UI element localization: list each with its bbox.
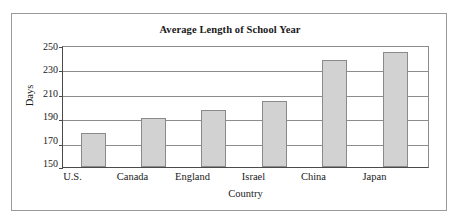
chart-page: Average Length of School Year Days 250 2… — [0, 0, 458, 224]
chart-title: Average Length of School Year — [12, 24, 448, 35]
bar-us[interactable] — [81, 133, 106, 167]
gridline-190 — [63, 120, 428, 121]
y-tick-label-250: 250 — [43, 42, 58, 52]
x-tick-label-japan: Japan — [335, 171, 415, 182]
y-tick-mark-190 — [59, 120, 63, 121]
y-tick-label-210: 210 — [43, 89, 58, 99]
y-tick-label-230: 230 — [43, 65, 58, 75]
figure-frame: Average Length of School Year Days 250 2… — [11, 13, 447, 211]
y-tick-label-170: 170 — [43, 136, 58, 146]
y-tick-label-150: 150 — [43, 159, 58, 169]
bar-canada[interactable] — [141, 118, 166, 167]
bar-china[interactable] — [322, 60, 347, 167]
y-tick-label-190: 190 — [43, 112, 58, 122]
y-tick-mark-150 — [59, 168, 63, 169]
bar-japan[interactable] — [383, 52, 408, 167]
y-tick-mark-250 — [59, 47, 63, 48]
x-axis-title: Country — [62, 188, 429, 199]
bar-israel[interactable] — [262, 101, 287, 167]
plot-area — [62, 46, 429, 168]
gridline-230 — [63, 71, 428, 72]
y-tick-mark-210 — [59, 96, 63, 97]
bar-england[interactable] — [201, 110, 226, 167]
y-tick-mark-170 — [59, 145, 63, 146]
y-tick-mark-230 — [59, 71, 63, 72]
gridline-170 — [63, 145, 428, 146]
gridline-210 — [63, 96, 428, 97]
y-axis-tick-labels: 250 230 210 190 170 150 — [26, 46, 58, 168]
